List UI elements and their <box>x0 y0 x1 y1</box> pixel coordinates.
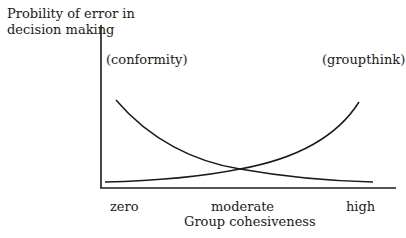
chart-figure: Probility of error in decision making (c… <box>0 0 406 238</box>
y-axis-label-line-1: Probility of error in <box>7 6 135 22</box>
y-axis-label: Probility of error in decision making <box>7 6 135 38</box>
y-axis-label-line-2: decision making <box>7 22 135 38</box>
x-tick-moderate: moderate <box>211 199 274 214</box>
x-tick-high: high <box>346 199 375 214</box>
conformity-curve <box>116 100 373 182</box>
x-axis-label: Group cohesiveness <box>184 214 316 229</box>
groupthink-annotation: (groupthink) <box>322 52 405 67</box>
conformity-annotation: (conformity) <box>106 52 188 67</box>
groupthink-curve <box>105 102 359 182</box>
x-tick-zero: zero <box>110 199 139 214</box>
